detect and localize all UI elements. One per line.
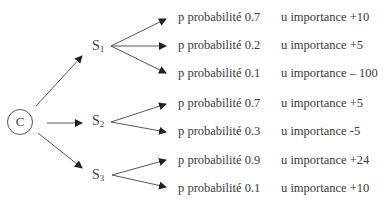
- outcome-util: u importance +10: [281, 10, 369, 24]
- outcome-util: u importance +24: [281, 153, 369, 167]
- outcome-prob: p probabilité 0.1: [178, 181, 260, 195]
- strategy-label: S: [92, 113, 100, 128]
- outcome-prob: p probabilité 0.7: [178, 10, 260, 24]
- strategy-node-s1: S1: [92, 38, 104, 57]
- outcome-prob: p probabilité 0.7: [178, 96, 260, 110]
- strategy-node-s2: S2: [92, 113, 104, 132]
- strategy-label: S: [92, 38, 100, 53]
- strategy-subscript: 2: [100, 119, 105, 129]
- outcome-util: u importance +5: [281, 96, 363, 110]
- strategy-subscript: 1: [100, 44, 105, 54]
- outcome-util: u importance +10: [281, 181, 369, 195]
- outcome-util: u importance – 100: [281, 66, 378, 80]
- outcome-prob: p probabilité 0.2: [178, 38, 260, 52]
- decision-tree: C S1 S2 S3 p probabilité 0.7 u importanc…: [0, 0, 388, 208]
- edge-s2-o2: [111, 122, 166, 132]
- strategy-label: S: [92, 167, 100, 182]
- outcome-util: u importance -5: [281, 124, 360, 138]
- outcome-prob: p probabilité 0.3: [178, 124, 260, 138]
- outcome-util: u importance +5: [281, 38, 363, 52]
- root-node-c: C: [7, 109, 33, 135]
- edge-s3-o1: [112, 160, 166, 175]
- strategy-subscript: 3: [100, 173, 105, 183]
- edge-s1-o1: [111, 19, 166, 46]
- edge-s1-o3: [111, 46, 166, 73]
- edge-s2-o1: [111, 104, 166, 122]
- edge-c-s3: [38, 133, 82, 168]
- edge-c-s1: [36, 56, 82, 106]
- edge-s3-o2: [112, 175, 166, 187]
- root-label: C: [16, 114, 25, 130]
- outcome-prob: p probabilité 0.9: [178, 153, 260, 167]
- outcome-prob: p probabilité 0.1: [178, 66, 260, 80]
- strategy-node-s3: S3: [92, 167, 104, 186]
